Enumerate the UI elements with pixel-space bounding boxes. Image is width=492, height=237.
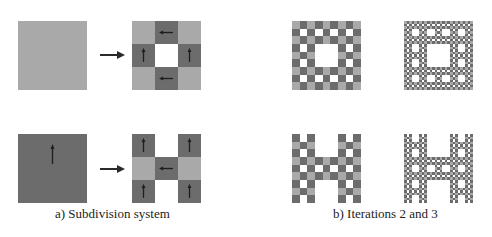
rule-a-subdivision xyxy=(132,21,201,90)
square-iteration-3 xyxy=(404,21,473,90)
square-iteration-2 xyxy=(292,21,361,90)
h-shape-iteration-3 xyxy=(404,134,473,203)
caption-iterations: b) Iterations 2 and 3 xyxy=(333,206,438,222)
h-shape-iteration-2 xyxy=(292,134,361,203)
rule-b-source-square xyxy=(18,134,87,203)
square-iter3-svg xyxy=(404,21,473,90)
rule-b-subdivision xyxy=(132,134,201,203)
h-iter2-svg xyxy=(292,134,361,203)
caption-subdivision-system: a) Subdivision system xyxy=(55,206,170,222)
dark-square-svg xyxy=(18,134,87,203)
rule-a-source-square xyxy=(18,21,87,90)
light-square-subdivision-svg xyxy=(132,21,201,90)
dark-square-subdivision-svg xyxy=(132,134,201,203)
light-square-svg xyxy=(18,21,87,90)
square-iter2-svg xyxy=(292,21,361,90)
h-iter3-svg xyxy=(404,134,473,203)
